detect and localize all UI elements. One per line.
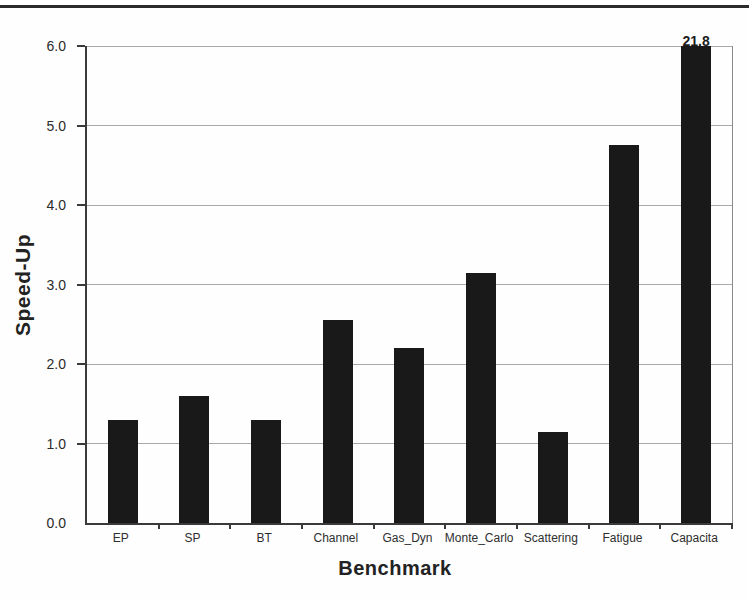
x-category-label: Scattering <box>515 531 587 545</box>
bar-EP <box>108 420 138 523</box>
category-slot <box>517 46 589 523</box>
category-slot <box>87 46 159 523</box>
x-axis-tick <box>516 523 518 529</box>
x-category-label: Monte_Carlo <box>443 531 515 545</box>
category-slot <box>445 46 517 523</box>
bar-Channel <box>323 320 353 523</box>
y-axis-tick <box>77 284 85 286</box>
x-axis-tick <box>588 523 590 529</box>
bar-SP <box>179 396 209 523</box>
category-slot: 21.8 <box>660 46 732 523</box>
x-category-label: Channel <box>300 531 372 545</box>
x-category-label: EP <box>85 531 157 545</box>
y-tick-label: 4.0 <box>14 198 66 212</box>
x-axis-tick <box>373 523 375 529</box>
x-category-label: Gas_Dyn <box>372 531 444 545</box>
category-slot <box>374 46 446 523</box>
page-top-rule <box>0 5 749 8</box>
y-axis-tick <box>77 125 85 127</box>
plot-area: 21.8 <box>85 46 733 525</box>
x-axis-tick <box>158 523 160 529</box>
x-category-label: BT <box>228 531 300 545</box>
x-category-label: Capacita <box>658 531 730 545</box>
y-axis-tick <box>77 204 85 206</box>
x-axis-title: Benchmark <box>75 557 715 580</box>
bar-Fatigue <box>609 145 639 523</box>
y-tick-label: 5.0 <box>14 119 66 133</box>
category-slot <box>230 46 302 523</box>
bar-Capacita: 21.8 <box>681 46 711 523</box>
y-axis-tick <box>77 363 85 365</box>
x-axis-tick <box>444 523 446 529</box>
figure: Speed-Up 21.8 0.01.02.03.04.05.06.0 EPSP… <box>0 0 749 599</box>
bar-Monte_Carlo <box>466 273 496 523</box>
y-axis-tick <box>77 45 85 47</box>
y-tick-label: 2.0 <box>14 357 66 371</box>
y-tick-label: 0.0 <box>14 516 66 530</box>
bar-Scattering <box>538 432 568 523</box>
x-axis-tick <box>229 523 231 529</box>
category-slot <box>159 46 231 523</box>
x-axis-tick <box>659 523 661 529</box>
bar-BT <box>251 420 281 523</box>
y-tick-label: 6.0 <box>14 39 66 53</box>
x-axis-tick <box>301 523 303 529</box>
x-axis-tick <box>731 523 733 529</box>
y-tick-label: 1.0 <box>14 437 66 451</box>
y-tick-label: 3.0 <box>14 278 66 292</box>
category-slot <box>302 46 374 523</box>
value-annotation: 21.8 <box>683 33 710 49</box>
y-axis-tick <box>77 443 85 445</box>
x-category-label: SP <box>157 531 229 545</box>
category-slot <box>589 46 661 523</box>
x-category-label: Fatigue <box>587 531 659 545</box>
bar-Gas_Dyn <box>394 348 424 523</box>
